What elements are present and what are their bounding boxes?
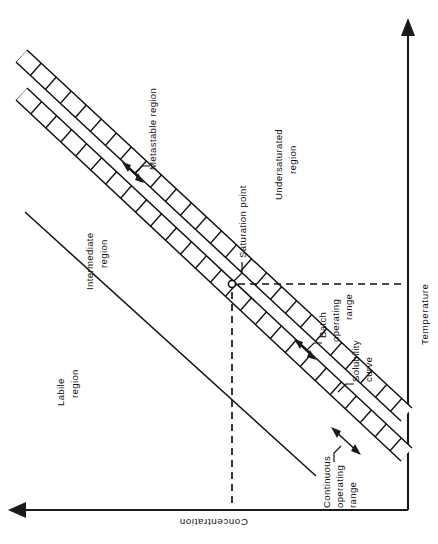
label-undersaturated-region-line2: region [287, 145, 298, 174]
label-intermediate-region-line1: Intermediate [84, 232, 95, 290]
label-batch-operating-range-line1: Batch [317, 312, 328, 338]
label-solubility-curve-line2: curve [363, 357, 374, 382]
label-metastable-region: Metastable region [147, 88, 158, 170]
label-labile-region-line1: Labile [55, 378, 66, 406]
label-solubility-curve-line1: Solubility [350, 340, 361, 382]
saturation-point-marker [228, 280, 235, 287]
axis-temperature [401, 18, 415, 510]
label-saturation-point: Saturation point [237, 185, 248, 258]
continuous-operating-range-callout [331, 427, 361, 462]
axis-arrow-left [8, 502, 26, 518]
axis-label-temperature: Temperature [419, 283, 430, 345]
axis-arrow-up [401, 18, 415, 36]
solubility-curve-band [14, 85, 415, 463]
label-continuous-operating-range-line3: range [347, 482, 358, 508]
labile-intermediate-divider [25, 212, 316, 476]
label-continuous-operating-range-line1: Continuous [321, 456, 332, 508]
figure-root: Metastable region Undersaturated region … [0, 0, 438, 544]
axis-label-concentration: Concentration [179, 517, 248, 528]
phase-diagram-svg: Metastable region Undersaturated region … [0, 0, 438, 544]
label-batch-operating-range-line3: range [343, 294, 354, 320]
label-labile-region-line2: region [69, 369, 80, 398]
label-continuous-operating-range-line2: operating [334, 465, 345, 508]
label-intermediate-region-line2: region [98, 239, 109, 268]
label-batch-operating-range-line2: operating [330, 299, 341, 342]
label-undersaturated-region-line1: Undersaturated [273, 129, 284, 200]
